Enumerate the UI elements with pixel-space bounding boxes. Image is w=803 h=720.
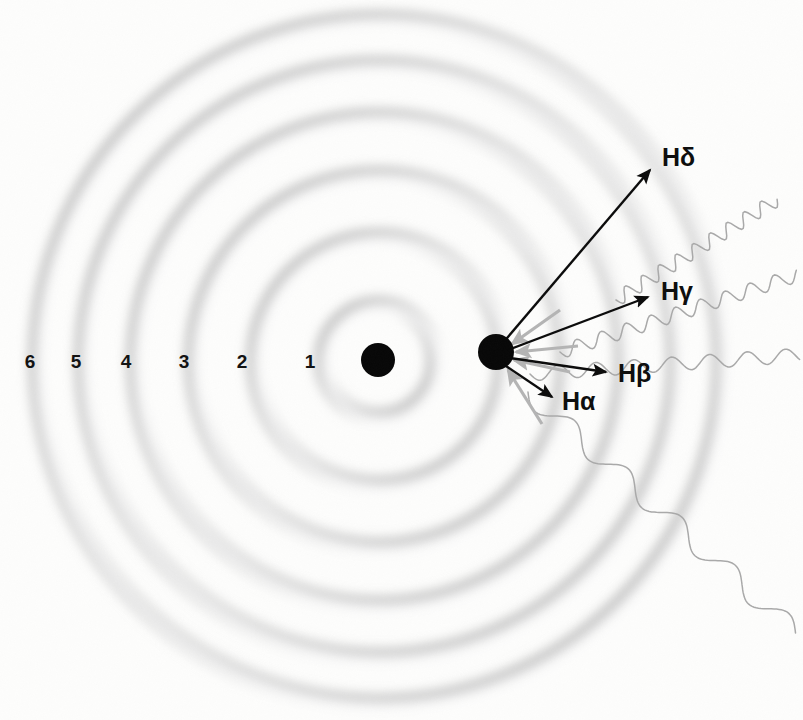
diagram-canvas: 123456 HδHγHβHα <box>0 0 803 720</box>
bohr-model-diagram: 123456 HδHγHβHα <box>0 0 803 720</box>
paper-grain-overlay <box>0 0 803 720</box>
